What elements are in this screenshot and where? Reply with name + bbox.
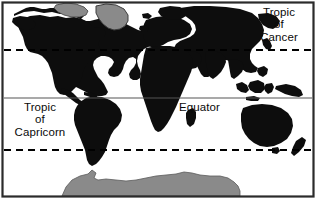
tropic-of-cancer-label-line3: Cancer: [246, 31, 312, 43]
tropic-of-cancer-label-line1: Tropic: [246, 6, 312, 18]
tropic-of-cancer-label: Tropic of Cancer: [246, 6, 312, 43]
tropic-of-capricorn-label: Tropic of Capricorn: [2, 101, 78, 138]
tropic-of-capricorn-label-line2: of: [2, 113, 78, 125]
tropic-of-capricorn-label-line3: Capricorn: [2, 126, 78, 138]
tropic-of-cancer-label-line2: of: [246, 18, 312, 30]
world-map-figure: Tropic of Cancer Tropic of Capricorn Equ…: [0, 0, 316, 199]
equator-label: Equator: [179, 101, 241, 113]
tropic-of-capricorn-label-line1: Tropic: [2, 101, 78, 113]
